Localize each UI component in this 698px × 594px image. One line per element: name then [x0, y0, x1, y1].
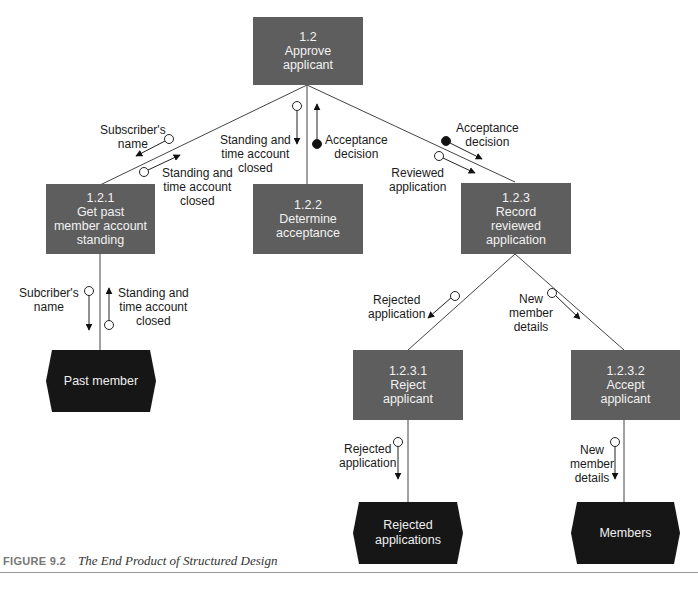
flow-label-standing-center: Standing andtime accountclosed [220, 133, 291, 175]
data-couple-icon [435, 152, 444, 161]
data-couple-icon [165, 135, 174, 144]
flow-label-rejected-application-diag: Rejectedapplication [368, 293, 425, 321]
module-1.2-approve-applicant: 1.2 Approve applicant [253, 17, 363, 85]
data-store-past-member: Past member [46, 350, 156, 412]
data-couple-icon [451, 292, 460, 301]
module-1.2.1-get-past-member-account-standing: 1.2.1 Get past member account standing [46, 184, 155, 254]
flow-label-acceptance-center: Acceptancedecision [325, 133, 388, 161]
data-couple-icon [293, 102, 302, 111]
flow-arrow-rejected-diag [428, 297, 452, 318]
module-1.2.2-determine-acceptance: 1.2.2 Determine acceptance [253, 184, 363, 254]
flow-label-subcribers-name-lower: Subcriber'sname [19, 286, 79, 314]
flow-label-acceptance-right: Acceptancedecision [456, 121, 519, 149]
flow-label-standing-lower: Standing andtime accountclosed [118, 286, 189, 328]
figure-caption: FIGURE 9.2 The End Product of Structured… [0, 553, 698, 573]
figure-number: FIGURE 9.2 [3, 555, 66, 567]
flow-label-new-member-details-diag: Newmemberdetails [509, 292, 553, 334]
control-couple-icon [313, 140, 322, 149]
module-1.2.3.2-accept-applicant: 1.2.3.2 Accept applicant [571, 350, 680, 420]
figure-title: The End Product of Structured Design [78, 553, 277, 569]
flow-label-subscribers-name: Subscriber'sname [100, 123, 166, 151]
flow-label-rejected-application-down: Rejectedapplication [339, 442, 396, 470]
data-couple-icon [85, 287, 94, 296]
caption-rule [0, 572, 698, 573]
data-couple-icon [140, 168, 149, 177]
module-1.2.3.1-reject-applicant: 1.2.3.1 Reject applicant [353, 350, 463, 420]
control-couple-icon [442, 137, 451, 146]
flow-label-reviewed-application: Reviewedapplication [389, 166, 446, 194]
data-couple-icon [105, 321, 114, 330]
flow-label-new-member-details-down: Newmemberdetails [570, 443, 614, 485]
flow-arrow-reviewed [443, 158, 475, 173]
module-1.2.3-record-reviewed-application: 1.2.3 Record reviewed application [461, 183, 571, 254]
